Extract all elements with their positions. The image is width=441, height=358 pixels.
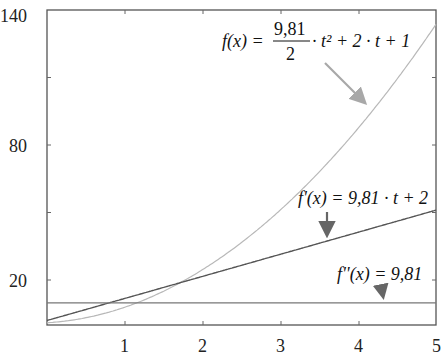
y-tick-20: 20 [9, 271, 27, 291]
function-chart: 140 80 20 1 2 3 4 5 f(x) = 9,81 2 · t² +… [0, 0, 441, 358]
arrow-icon [381, 286, 383, 296]
annotation-fprime: f'(x) = 9,81 · t + 2 [298, 188, 428, 234]
y-axis-ticks [47, 78, 436, 281]
arrow-icon [325, 63, 364, 102]
x-tick-2: 2 [198, 336, 207, 356]
y-tick-140: 140 [0, 6, 27, 26]
fprime-label: f'(x) = 9,81 · t + 2 [298, 188, 428, 209]
annotation-f: f(x) = 9,81 2 · t² + 2 · t + 1 [222, 19, 410, 102]
f-denominator: 2 [286, 44, 295, 64]
f-rest: · t² + 2 · t + 1 [312, 31, 410, 51]
annotation-fdoubleprime: f''(x) = 9,81 [337, 264, 422, 296]
f-lhs: f(x) = [222, 31, 264, 52]
x-tick-1: 1 [120, 336, 129, 356]
f-numerator: 9,81 [274, 19, 306, 39]
x-tick-5: 5 [432, 336, 441, 356]
x-tick-4: 4 [354, 336, 363, 356]
x-tick-3: 3 [276, 336, 285, 356]
fdoubleprime-label: f''(x) = 9,81 [337, 264, 422, 285]
y-tick-80: 80 [9, 136, 27, 156]
